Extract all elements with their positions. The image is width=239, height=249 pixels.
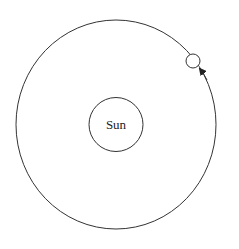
orbit-direction-arrow-icon [200,69,207,80]
orbit-diagram: Sun [0,0,239,249]
planet [186,54,200,68]
sun-label: Sun [106,117,127,132]
